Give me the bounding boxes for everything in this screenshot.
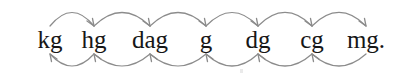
unit-label-milligram: mg. <box>340 27 392 53</box>
scan-speck <box>240 69 243 73</box>
unit-label-hectogram: hg <box>74 27 114 53</box>
unit-label-kilogram: kg <box>30 27 70 53</box>
unit-label-row: kghgdaggdgcgmg. <box>0 0 401 75</box>
metric-ladder-diagram: kghgdaggdgcgmg. <box>0 0 401 75</box>
unit-label-centigram: cg <box>292 27 332 53</box>
unit-label-decigram: dg <box>238 27 278 53</box>
unit-label-gram: g <box>192 27 220 53</box>
unit-label-dekagram: dag <box>122 27 178 53</box>
